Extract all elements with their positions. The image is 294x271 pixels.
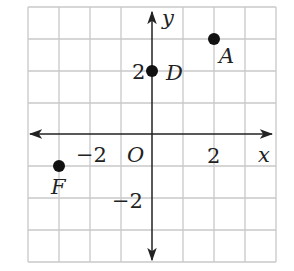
y-tick-neg: −2 (112, 189, 143, 213)
point-marker (53, 160, 65, 172)
y-tick-pos: 2 (132, 60, 145, 84)
point-label: D (165, 61, 183, 85)
x-axis-label: x (258, 143, 270, 167)
origin-label: O (127, 143, 144, 167)
x-tick-neg: −2 (76, 143, 107, 167)
point-label: F (50, 175, 67, 199)
point-marker (146, 65, 158, 77)
x-tick-pos: 2 (207, 144, 220, 168)
point-A: A (208, 33, 234, 68)
y-axis-label: y (161, 6, 175, 30)
point-label: A (217, 44, 234, 68)
coordinate-plane: x y O 2 −2 2 −2 A D F (0, 0, 294, 271)
